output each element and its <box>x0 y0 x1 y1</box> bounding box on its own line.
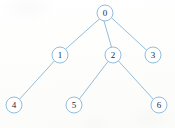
tree-diagram-canvas: 0123456 <box>0 0 175 128</box>
node-label-2: 2 <box>111 50 116 60</box>
tree-node-5[interactable]: 5 <box>66 97 82 113</box>
tree-graph: 0123456 <box>0 0 175 128</box>
tree-edge-0-1 <box>66 19 100 49</box>
tree-node-0[interactable]: 0 <box>97 5 113 21</box>
tree-edge-0-3 <box>112 18 147 51</box>
node-label-3: 3 <box>151 50 156 60</box>
tree-node-3[interactable]: 3 <box>145 47 161 63</box>
node-label-5: 5 <box>72 100 77 110</box>
node-label-1: 1 <box>58 50 63 60</box>
tree-edge-2-5 <box>80 62 109 99</box>
tree-edge-1-4 <box>20 61 55 99</box>
tree-node-6[interactable]: 6 <box>151 97 167 113</box>
node-label-4: 4 <box>12 100 17 110</box>
node-label-0: 0 <box>103 8 108 18</box>
tree-edge-2-6 <box>119 61 154 100</box>
tree-edge-0-2 <box>104 21 112 47</box>
nodes-layer: 0123456 <box>6 5 167 113</box>
tree-node-2[interactable]: 2 <box>105 47 121 63</box>
tree-node-1[interactable]: 1 <box>52 47 68 63</box>
edges-layer <box>20 18 154 100</box>
node-label-6: 6 <box>157 100 162 110</box>
tree-node-4[interactable]: 4 <box>6 97 22 113</box>
